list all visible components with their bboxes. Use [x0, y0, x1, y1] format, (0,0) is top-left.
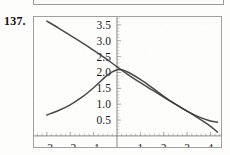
- y-axis-tick-label: 3.5: [97, 19, 112, 31]
- y-axis-tick-label: 1.0: [97, 98, 112, 110]
- y-axis-tick-label: 1.5: [97, 82, 112, 94]
- x-axis-tick-label: −1: [87, 142, 99, 147]
- x-axis-tick-label: 2: [161, 142, 167, 147]
- x-axis-tick-label: 4: [208, 142, 214, 147]
- x-axis-tick-label: 1: [137, 142, 143, 147]
- y-axis-tick-label: 2.0: [97, 66, 112, 78]
- plot-canvas: −3−2−112340.51.01.52.02.53.03.5: [34, 17, 221, 147]
- problem-number: 137.: [4, 14, 26, 29]
- figure-page: 137. −3−2−112340.51.01.52.02.53.03.5: [0, 0, 230, 155]
- plot-frame: −3−2−112340.51.01.52.02.53.03.5: [33, 16, 222, 148]
- previous-figure-frame-edge: [33, 0, 224, 5]
- y-axis-tick-label: 0.5: [97, 114, 112, 126]
- x-axis-tick-label: −2: [64, 142, 76, 147]
- x-axis-tick-label: −3: [41, 142, 53, 147]
- curve-descending-line: [47, 21, 218, 132]
- x-axis-tick-label: 3: [184, 142, 190, 147]
- y-axis-tick-label: 3.0: [97, 35, 112, 47]
